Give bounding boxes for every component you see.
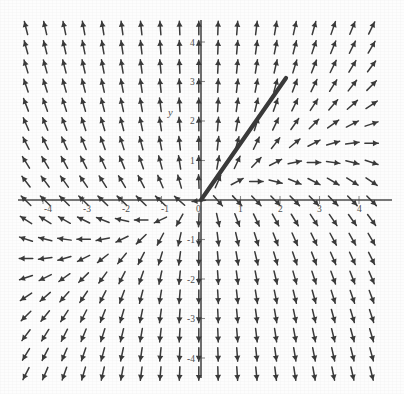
field-arrow-head xyxy=(215,356,221,362)
field-arrow-head xyxy=(61,21,67,27)
field-arrow-head xyxy=(334,140,340,146)
x-tick-label-2: 2 xyxy=(278,204,283,214)
field-arrow-head xyxy=(273,41,279,47)
field-arrow-head xyxy=(234,375,240,381)
field-arrow-head xyxy=(333,120,339,126)
field-arrow-head xyxy=(157,336,163,342)
field-arrow-head xyxy=(369,355,375,361)
field-arrow-head xyxy=(177,336,183,342)
field-arrow-head xyxy=(138,336,144,342)
direction-field-figure: -4-3-2-1012344321-1-2-3-4y xyxy=(0,0,404,394)
field-arrow-head xyxy=(311,336,317,342)
field-arrow-head xyxy=(350,355,356,361)
field-arrow-head xyxy=(176,175,182,181)
field-arrow-head xyxy=(138,21,144,27)
field-arrow-head xyxy=(23,21,29,27)
field-arrow-head xyxy=(138,117,144,123)
field-arrow-head xyxy=(215,21,221,27)
field-arrow-head xyxy=(177,60,183,66)
field-arrow-head xyxy=(215,259,221,265)
field-arrow-head xyxy=(42,41,48,47)
field-arrow-head xyxy=(215,79,221,85)
field-arrow-head xyxy=(235,117,241,123)
field-arrow-head xyxy=(369,374,375,380)
field-arrow-head xyxy=(100,374,106,380)
field-arrow-head xyxy=(157,60,163,66)
field-arrow-head xyxy=(61,41,67,47)
field-arrow-head xyxy=(215,98,221,104)
field-arrow-head xyxy=(331,355,337,361)
x-tick-label--3: -3 xyxy=(83,204,91,214)
field-arrow-head xyxy=(100,79,106,85)
field-arrow-head xyxy=(234,40,240,46)
y-axis-name-label: y xyxy=(167,107,173,118)
field-arrow-head xyxy=(119,98,125,104)
field-arrow-head xyxy=(292,41,298,47)
y-tick-label--2: -2 xyxy=(187,275,195,285)
field-arrow-head xyxy=(60,176,66,182)
field-arrow-head xyxy=(23,41,29,47)
field-arrow-head xyxy=(177,117,183,123)
field-arrow-head xyxy=(80,41,86,47)
field-arrow-head xyxy=(115,217,121,223)
y-tick-label--3: -3 xyxy=(187,314,195,324)
axis-lines xyxy=(18,20,392,378)
field-arrow-head xyxy=(331,374,337,380)
field-arrow-head xyxy=(80,79,86,85)
field-arrow-head xyxy=(215,221,221,227)
field-arrow-head xyxy=(177,40,183,46)
field-arrow-head xyxy=(138,98,144,104)
field-arrow-head xyxy=(273,298,279,304)
field-arrow-head xyxy=(176,136,182,142)
field-arrow-head xyxy=(234,259,240,265)
field-arrow-head xyxy=(373,140,378,146)
field-arrow-head xyxy=(138,137,144,143)
field-arrow-head xyxy=(234,298,240,304)
field-arrow-head xyxy=(254,278,260,284)
y-tick-label-3: 3 xyxy=(190,77,195,87)
x-tick-label-1: 1 xyxy=(238,204,243,214)
field-arrow-head xyxy=(254,355,260,361)
field-arrow-head xyxy=(157,21,163,27)
field-arrow-head xyxy=(234,336,240,342)
field-arrow-head xyxy=(215,40,221,46)
field-arrow-head xyxy=(331,336,337,342)
field-arrow-head xyxy=(157,137,163,143)
field-arrow-head xyxy=(234,21,240,27)
y-tick-label-4: 4 xyxy=(190,38,195,48)
field-arrow-head xyxy=(119,117,125,123)
field-arrow-head xyxy=(234,356,240,362)
field-arrow-head xyxy=(311,297,317,303)
field-arrow-head xyxy=(100,41,106,47)
field-arrow-head xyxy=(157,355,163,361)
field-arrow-head xyxy=(351,219,357,225)
field-arrow-head xyxy=(258,179,263,185)
field-arrow-head xyxy=(215,60,221,66)
x-tick-label--2: -2 xyxy=(122,204,130,214)
field-arrow-head xyxy=(215,156,221,162)
field-arrow-head xyxy=(273,79,279,85)
field-arrow-head xyxy=(273,60,279,66)
field-arrow-head xyxy=(331,317,337,323)
field-arrow-head xyxy=(42,21,48,27)
field-arrow-head xyxy=(215,279,221,285)
x-tick-label-4: 4 xyxy=(357,204,362,214)
field-arrow-head xyxy=(177,317,183,323)
field-arrow-head xyxy=(254,375,260,381)
x-tick-label-3: 3 xyxy=(317,204,322,214)
x-tick-label--1: -1 xyxy=(161,204,169,214)
field-arrow-head xyxy=(19,255,24,261)
field-arrow-head xyxy=(296,159,302,165)
field-arrow-head xyxy=(119,374,125,380)
field-arrow-head xyxy=(176,279,182,285)
field-arrow-head xyxy=(157,40,163,46)
field-arrow-head xyxy=(119,336,125,342)
field-arrow-head xyxy=(157,156,163,162)
field-arrow-head xyxy=(215,298,221,304)
field-arrow-head xyxy=(96,237,102,243)
field-arrow-head xyxy=(77,236,82,242)
field-arrow-head xyxy=(119,79,125,85)
y-tick-label--1: -1 xyxy=(187,235,195,245)
field-arrow-head xyxy=(292,297,298,303)
field-arrow-head xyxy=(254,79,260,85)
